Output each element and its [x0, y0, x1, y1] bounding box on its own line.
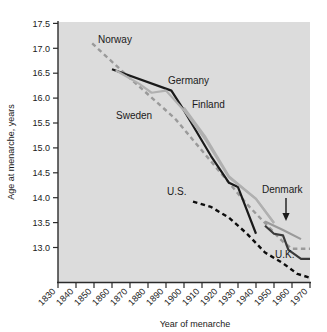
x-tick-label: 1900: [162, 286, 183, 307]
series-label-denmark: Denmark: [262, 184, 304, 195]
x-tick-label: 1950: [252, 286, 273, 307]
x-tick-label: 1860: [90, 286, 111, 307]
menarche-age-line-chart: 17.5 17.0 16.5 16.0 15.5 15.0 14.5 14.0 …: [0, 0, 327, 332]
x-tick-label: 1970: [288, 286, 309, 307]
series-label-finland: Finland: [192, 99, 225, 110]
x-tick-label: 1920: [198, 286, 219, 307]
series-label-uk: U.K.: [275, 249, 294, 260]
y-tick-label: 14.5: [32, 168, 50, 178]
x-tick-label: 1870: [108, 286, 129, 307]
y-tick-label: 17.0: [32, 44, 50, 54]
x-tick-label: 1830: [36, 286, 57, 307]
series-label-germany: Germany: [168, 75, 209, 86]
x-tick-label: 1960: [270, 286, 291, 307]
x-tick-label: 1940: [234, 286, 255, 307]
y-tick-label: 16.0: [32, 93, 50, 103]
x-tick-label: 1910: [180, 286, 201, 307]
chart-figure: 17.5 17.0 16.5 16.0 15.5 15.0 14.5 14.0 …: [0, 0, 327, 332]
x-axis-ticks: [58, 283, 310, 288]
x-axis-tick-labels: 1830 1840 1850 1860 1870 1880 1890 1900 …: [36, 286, 309, 307]
plot-background: [58, 22, 310, 282]
series-label-sweden: Sweden: [116, 110, 152, 121]
y-axis-tick-labels: 17.5 17.0 16.5 16.0 15.5 15.0 14.5 14.0 …: [32, 19, 50, 253]
y-tick-label: 16.5: [32, 68, 50, 78]
x-tick-label: 1880: [126, 286, 147, 307]
y-tick-label: 13.0: [32, 243, 50, 253]
y-tick-label: 15.5: [32, 118, 50, 128]
x-tick-label: 1930: [216, 286, 237, 307]
y-tick-label: 17.5: [32, 19, 50, 29]
series-label-us: U.S.: [167, 186, 186, 197]
y-tick-label: 15.0: [32, 143, 50, 153]
x-tick-label: 1850: [72, 286, 93, 307]
y-tick-label: 14.0: [32, 193, 50, 203]
x-tick-label: 1890: [144, 286, 165, 307]
y-tick-label: 13.5: [32, 218, 50, 228]
y-axis-title: Age at menarche, years: [6, 104, 16, 200]
y-axis-ticks: [53, 23, 58, 247]
series-label-norway: Norway: [98, 34, 132, 45]
x-axis-title: Year of menarche: [160, 319, 231, 329]
x-tick-label: 1840: [54, 286, 75, 307]
